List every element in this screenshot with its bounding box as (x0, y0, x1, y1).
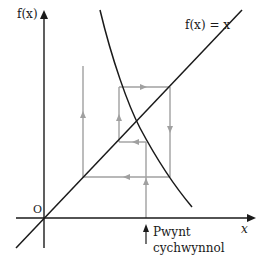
start-point-label: Pwynt cychwynnol (153, 224, 225, 256)
y-axis-label: f(x) (17, 7, 38, 21)
start-label-line2: cychwynnol (153, 240, 225, 256)
y-axis-arrow-icon (40, 10, 48, 19)
start-arrow-icon (143, 224, 149, 232)
y-axis-label-text: f(x) (17, 7, 38, 21)
cobweb-path (83, 66, 170, 218)
x-axis-label: x (241, 222, 248, 236)
origin-label: O (33, 203, 42, 216)
identity-line-label: f(x) = x (185, 18, 230, 32)
start-label-line1: Pwynt (153, 224, 225, 240)
axes (16, 14, 252, 248)
identity-line (16, 10, 242, 248)
x-axis-arrow-icon (247, 214, 256, 222)
